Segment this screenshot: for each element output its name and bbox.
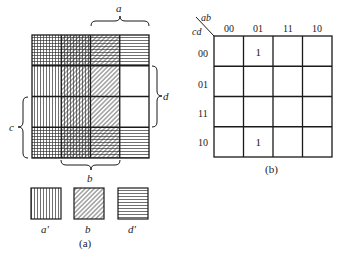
col-header-11: 11: [283, 23, 293, 34]
caption-b: (b): [265, 163, 278, 176]
corner-label-cd: cd: [192, 26, 202, 37]
cell-r0-c1: 1: [256, 46, 262, 58]
row-header-00: 00: [198, 48, 208, 59]
legend-d-prime: d': [118, 188, 148, 235]
caption-a: (a): [79, 237, 92, 250]
brace-d: [152, 66, 162, 127]
col-header-10: 10: [312, 23, 322, 34]
brace-label-b: b: [87, 172, 93, 184]
cell-r3-c1: 1: [256, 136, 262, 148]
row-header-01: 01: [198, 79, 208, 90]
kmap-grid: [214, 36, 332, 157]
diagram-canvas: a d c b a' b d' (a) ab cd 00 01: [0, 0, 339, 255]
col-header-00: 00: [224, 23, 234, 34]
col-header-01: 01: [253, 23, 263, 34]
figure-a: a d c b a' b d' (a): [9, 2, 169, 250]
legend-b: b: [74, 188, 104, 235]
brace-c: [18, 97, 28, 158]
brace-label-d: d: [163, 90, 169, 102]
svg-text:d': d': [128, 223, 137, 235]
row-header-10: 10: [198, 137, 208, 148]
brace-a: [91, 16, 149, 26]
brace-label-a: a: [116, 2, 122, 14]
brace-b: [61, 160, 120, 170]
svg-text:b: b: [85, 223, 91, 235]
brace-label-c: c: [9, 121, 14, 133]
row-header-11: 11: [198, 108, 208, 119]
figure-b-kmap: ab cd 00 01 11 10 00 01 11 10 1 1 (b): [192, 12, 332, 176]
corner-label-ab: ab: [201, 12, 211, 23]
legend-a-prime: a': [31, 188, 61, 235]
svg-text:a': a': [41, 223, 50, 235]
